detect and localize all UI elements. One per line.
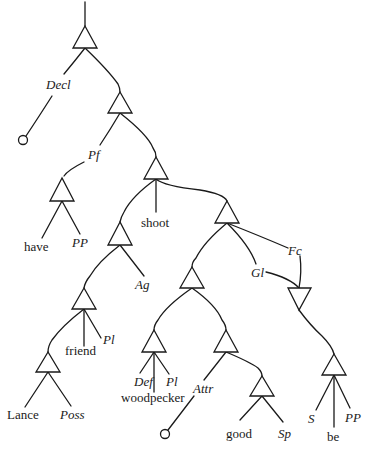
- triangle-node-woodpecker: [142, 330, 166, 352]
- edge-t4-pp: [62, 201, 80, 234]
- edge-t6-fc: [227, 223, 288, 248]
- label-decl: Decl: [45, 77, 71, 92]
- triangle-node-inverted: [288, 288, 311, 310]
- edge-inv-t12: [299, 310, 334, 354]
- label-good: good: [226, 426, 253, 441]
- label-gl: Gl: [251, 265, 264, 280]
- label-shoot: shoot: [141, 215, 170, 230]
- edge-decl-circle: [26, 96, 52, 136]
- edge-fc-inv: [299, 256, 301, 288]
- edge-t12-pp: [334, 375, 350, 408]
- tree-diagram: Decl Pf have PP shoot Ag Fc Gl friend Pl…: [0, 0, 375, 452]
- label-pp-2: PP: [344, 410, 361, 425]
- label-pl-1: Pl: [102, 332, 115, 347]
- edge-t2-t3: [120, 113, 156, 157]
- triangle-node-right: [215, 201, 239, 223]
- edge-t4-have: [42, 201, 62, 238]
- triangle-node-ag: [108, 222, 132, 245]
- label-lance: Lance: [7, 407, 39, 422]
- edge-t2-pf: [100, 113, 120, 145]
- label-pf: Pf: [87, 147, 102, 162]
- edge-t1-t2: [85, 48, 120, 92]
- label-have: have: [24, 239, 49, 254]
- triangle-node-attr: [214, 330, 238, 352]
- empty-node-circle-attr: [161, 430, 170, 439]
- triangle-node-be: [322, 354, 346, 375]
- label-pp-1: PP: [71, 235, 88, 250]
- triangle-node-good: [250, 376, 274, 396]
- edge-t1-decl: [64, 48, 85, 74]
- triangle-node-have: [50, 178, 74, 201]
- label-def: Def: [133, 374, 155, 389]
- edge-t11-t13: [226, 352, 262, 376]
- edge-t9-t10: [154, 288, 192, 330]
- label-be: be: [327, 429, 340, 444]
- label-friend: friend: [65, 343, 97, 358]
- label-attr: Attr: [192, 381, 214, 396]
- edge-t9-t11: [192, 288, 226, 330]
- triangle-node-shoot: [144, 157, 168, 179]
- label-woodpecker: woodpecker: [121, 390, 185, 405]
- empty-node-circle-decl: [19, 136, 28, 145]
- triangle-node-friend: [72, 288, 96, 309]
- edge-t10-pl: [154, 352, 169, 374]
- triangle-node-lower-left: [180, 267, 204, 288]
- edge-t6-t9: [192, 223, 227, 267]
- triangle-node-2: [108, 92, 132, 113]
- edge-gl-inv: [266, 272, 299, 288]
- label-poss: Poss: [59, 407, 85, 422]
- edge-t13-good: [240, 396, 262, 420]
- edge-t11-attr: [204, 352, 226, 380]
- label-s: S: [308, 411, 315, 426]
- edge-t8-lance: [25, 372, 48, 407]
- edge-t8-poss: [48, 372, 71, 406]
- edge-pf-t4: [64, 162, 84, 176]
- label-ag: Ag: [134, 277, 150, 292]
- triangle-node-lance: [36, 352, 60, 372]
- triangle-node-root: [73, 26, 97, 48]
- label-pl-2: Pl: [165, 374, 178, 389]
- edge-t10-def: [140, 352, 154, 373]
- edge-t7-pl: [84, 309, 101, 338]
- edge-t12-s: [316, 375, 334, 410]
- edge-t13-sp: [262, 396, 283, 422]
- edge-t5-t7: [84, 245, 120, 288]
- label-sp: Sp: [278, 426, 292, 441]
- edge-t3-t6: [156, 179, 227, 201]
- edge-t5-ag: [120, 245, 144, 276]
- label-fc: Fc: [287, 243, 302, 258]
